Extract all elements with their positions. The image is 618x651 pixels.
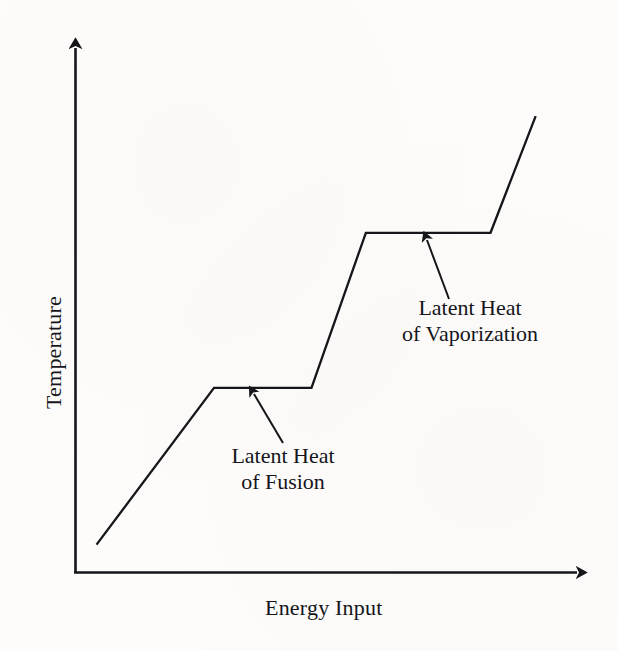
fusion-annotation-arrow	[254, 394, 283, 443]
fusion-label-line-2: of Fusion	[198, 469, 368, 495]
heating-curve-figure: Temperature Energy Input Latent Heat of …	[0, 0, 618, 651]
latent-heat-of-fusion-label: Latent Heat of Fusion	[198, 443, 368, 494]
latent-heat-of-vaporization-label: Latent Heat of Vaporization	[370, 295, 570, 346]
vaporization-label-line-1: Latent Heat	[370, 295, 570, 321]
x-axis-label: Energy Input	[265, 595, 382, 621]
vaporization-label-line-2: of Vaporization	[370, 321, 570, 347]
fusion-label-line-1: Latent Heat	[198, 443, 368, 469]
y-axis-label: Temperature	[41, 296, 67, 409]
vaporization-annotation-arrow	[427, 240, 449, 299]
